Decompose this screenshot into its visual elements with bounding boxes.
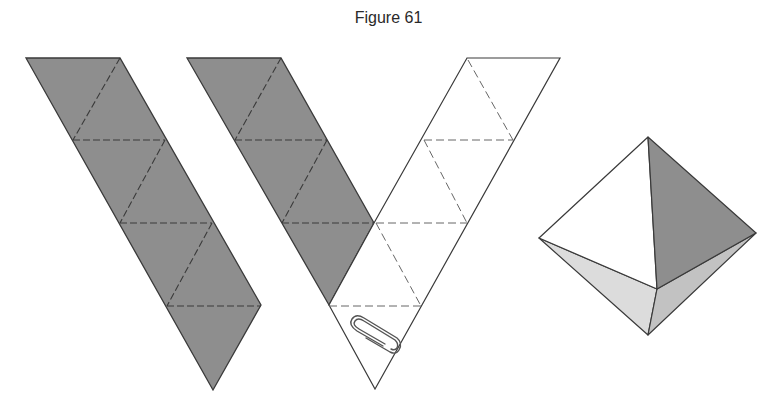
- octahedron: [539, 137, 756, 335]
- figure-diagram: [0, 0, 777, 411]
